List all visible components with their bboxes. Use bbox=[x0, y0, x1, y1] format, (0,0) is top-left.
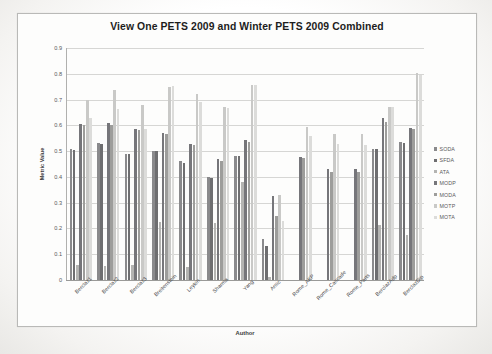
plot-area: 0.90.80.70.60.50.40.30.20.10 Metric Valu… bbox=[66, 48, 424, 280]
y-axis-tick-label: 0.2 bbox=[54, 225, 62, 231]
bar-modp bbox=[134, 129, 137, 280]
bar-mota bbox=[254, 85, 257, 280]
y-axis-title: Metric Value bbox=[39, 148, 45, 181]
bar-modp bbox=[272, 196, 275, 280]
bar-group bbox=[287, 48, 314, 280]
x-axis-label-cell: Berclaz1 bbox=[67, 282, 95, 326]
bar-motp bbox=[113, 90, 116, 280]
bar-group bbox=[397, 48, 424, 280]
bar-sfda bbox=[403, 143, 406, 280]
legend-item-motp[interactable]: MOTP bbox=[434, 203, 478, 209]
bar-mota bbox=[282, 221, 285, 280]
bar-modp bbox=[327, 169, 330, 280]
bar-motp bbox=[416, 73, 419, 280]
x-axis-label-cell: Breitenstein bbox=[150, 282, 178, 326]
bar-ata bbox=[159, 222, 162, 280]
bar-modp bbox=[382, 118, 385, 280]
bar-moda bbox=[110, 125, 113, 280]
bar-soda bbox=[399, 142, 402, 280]
legend-divider bbox=[429, 36, 430, 304]
bar-group bbox=[94, 48, 121, 280]
bar-mota bbox=[117, 109, 120, 280]
bar-modp bbox=[217, 159, 220, 280]
bar-group bbox=[259, 48, 286, 280]
bar-ata bbox=[378, 225, 381, 280]
bar-ata bbox=[104, 266, 107, 280]
legend-label: SFDA bbox=[440, 157, 455, 163]
legend-item-ata[interactable]: ATA bbox=[434, 169, 478, 175]
bar-soda bbox=[262, 239, 265, 280]
bar-soda bbox=[179, 161, 182, 280]
bar-mota bbox=[309, 136, 312, 280]
bar-motp bbox=[86, 100, 89, 280]
legend-item-modp[interactable]: MODP bbox=[434, 180, 478, 186]
y-axis-tick-label: 0.5 bbox=[54, 148, 62, 154]
y-axis-tick-label: 0.8 bbox=[54, 71, 62, 77]
bar-moda bbox=[330, 172, 333, 280]
x-axis-label-cell: BerclazAdp bbox=[370, 282, 398, 326]
legend-item-moda[interactable]: MODA bbox=[434, 192, 478, 198]
bar-group bbox=[314, 48, 341, 280]
x-axis-label-cell: Berclaz3 bbox=[122, 282, 150, 326]
legend-swatch-icon bbox=[434, 204, 437, 207]
bar-motp bbox=[278, 195, 281, 280]
bar-mota bbox=[199, 102, 202, 280]
bar-moda bbox=[302, 158, 305, 280]
bar-moda bbox=[248, 142, 251, 280]
bar-ata bbox=[214, 223, 217, 280]
bar-mota bbox=[172, 86, 175, 280]
bar-moda bbox=[357, 172, 360, 280]
x-axis-label-cell: Rome_Parts bbox=[342, 282, 370, 326]
y-axis-tick-label: 0.6 bbox=[54, 122, 62, 128]
bar-modp bbox=[354, 169, 357, 280]
bar-ata bbox=[76, 265, 79, 280]
bar-moda bbox=[165, 134, 168, 280]
y-axis-tick-label: 0.3 bbox=[54, 200, 62, 206]
bar-ata bbox=[406, 235, 409, 280]
bar-motp bbox=[361, 134, 364, 280]
legend-swatch-icon bbox=[434, 193, 437, 196]
y-axis-tick-label: 0.1 bbox=[54, 251, 62, 257]
bar-moda bbox=[220, 161, 223, 280]
x-axis-labels: Berclaz1Berclaz2Berclaz3BreitensteinLeyk… bbox=[67, 282, 425, 326]
x-axis-title: Author bbox=[66, 330, 424, 336]
legend-item-sfda[interactable]: SFDA bbox=[434, 157, 478, 163]
bar-group bbox=[149, 48, 176, 280]
bar-group bbox=[204, 48, 231, 280]
bar-motp bbox=[196, 94, 199, 280]
legend-label: MODP bbox=[440, 180, 456, 186]
bar-modp bbox=[189, 144, 192, 280]
bar-sfda bbox=[375, 149, 378, 280]
bar-soda bbox=[125, 154, 128, 280]
bar-group bbox=[342, 48, 369, 280]
bar-ata bbox=[131, 265, 134, 280]
x-axis-label-cell: Rome_Cascade bbox=[315, 282, 343, 326]
y-axis-tick-label: 0.9 bbox=[54, 45, 62, 51]
x-axis-label-cell: Arsic bbox=[260, 282, 288, 326]
bar-soda bbox=[70, 149, 73, 280]
x-axis-label-cell: Yang bbox=[232, 282, 260, 326]
bar-soda bbox=[234, 156, 237, 280]
legend-label: MOTA bbox=[440, 214, 455, 220]
legend-item-mota[interactable]: MOTA bbox=[434, 214, 478, 220]
bar-group bbox=[122, 48, 149, 280]
bar-motp bbox=[223, 107, 226, 280]
bar-motp bbox=[306, 127, 309, 280]
bar-soda bbox=[152, 151, 155, 280]
chart-container: View One PETS 2009 and Winter PETS 2009 … bbox=[17, 13, 477, 327]
legend-swatch-icon bbox=[434, 170, 437, 173]
legend-item-soda[interactable]: SODA bbox=[434, 146, 478, 152]
bar-motp bbox=[168, 87, 171, 280]
bar-sfda bbox=[238, 156, 241, 280]
bar-sfda bbox=[155, 151, 158, 280]
bar-mota bbox=[419, 75, 422, 280]
bar-mota bbox=[391, 107, 394, 280]
bar-mota bbox=[364, 145, 367, 280]
legend-swatch-icon bbox=[434, 181, 437, 184]
x-axis-label-cell: Leykin bbox=[177, 282, 205, 326]
bar-motp bbox=[141, 105, 144, 280]
bar-sfda bbox=[265, 246, 268, 280]
x-axis-label-cell: Rome_AKP bbox=[287, 282, 315, 326]
bar-modp bbox=[79, 124, 82, 280]
legend-label: MOTP bbox=[440, 203, 456, 209]
